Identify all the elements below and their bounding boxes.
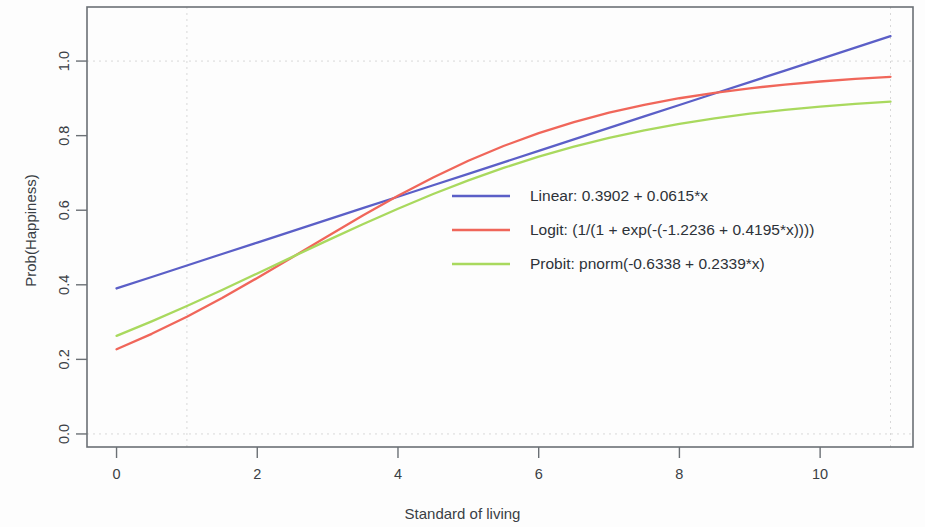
x-tick-label: 10 <box>812 466 828 482</box>
x-tick-label: 6 <box>535 466 543 482</box>
plot-area: 02468100.00.20.40.60.81.0 Linear: 0.3902… <box>0 0 925 527</box>
legend-label: Probit: pnorm(-0.6338 + 0.2339*x) <box>530 255 765 272</box>
legend-label: Logit: (1/(1 + exp(-(-1.2236 + 0.4195*x)… <box>530 221 814 238</box>
y-axis-title: Prob(Happiness) <box>22 141 39 321</box>
chart-figure: 02468100.00.20.40.60.81.0 Linear: 0.3902… <box>0 0 925 527</box>
y-tick-label: 0.4 <box>56 275 72 295</box>
chart-legend: Linear: 0.3902 + 0.0615*xLogit: (1/(1 + … <box>452 187 814 272</box>
x-tick-label: 4 <box>394 466 402 482</box>
y-tick-label: 0.6 <box>56 200 72 220</box>
y-tick-label: 1.0 <box>56 51 72 71</box>
data-curve-logit <box>117 77 891 349</box>
y-tick-label: 0.2 <box>56 349 72 369</box>
data-curves <box>117 36 891 349</box>
data-curve-probit <box>117 102 891 336</box>
data-curve-linear <box>117 36 891 288</box>
y-tick-label: 0.8 <box>56 126 72 146</box>
x-tick-label: 8 <box>675 466 683 482</box>
x-axis-title: Standard of living <box>0 505 925 522</box>
y-tick-label: 0.0 <box>56 424 72 444</box>
x-tick-label: 0 <box>113 466 121 482</box>
legend-label: Linear: 0.3902 + 0.0615*x <box>530 187 708 204</box>
x-tick-label: 2 <box>253 466 261 482</box>
